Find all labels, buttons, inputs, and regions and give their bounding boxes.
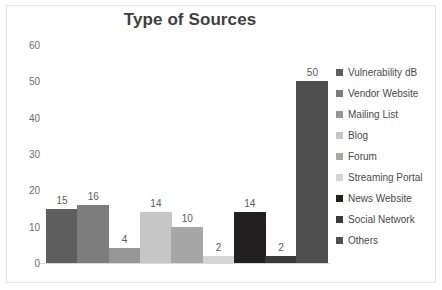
bar-group: 4 <box>109 45 141 263</box>
legend-item[interactable]: Streaming Portal <box>336 167 436 188</box>
legend-item-label: Vendor Website <box>348 88 418 99</box>
legend-item[interactable]: News Website <box>336 188 436 209</box>
legend-item-label: Mailing List <box>348 109 398 120</box>
bar[interactable] <box>46 209 78 264</box>
legend-swatch-icon <box>336 237 343 244</box>
x-axis-baseline <box>40 263 330 264</box>
bar[interactable] <box>171 227 203 263</box>
bar[interactable] <box>109 248 141 263</box>
bar-value-label: 14 <box>234 198 266 209</box>
bar-value-label: 16 <box>77 191 109 202</box>
y-axis-tick-40: 40 <box>12 114 40 124</box>
bar-group: 14 <box>140 45 172 263</box>
legend-item-label: Vulnerability dB <box>348 67 417 78</box>
bar-group: 2 <box>203 45 235 263</box>
y-axis-tick-50: 50 <box>12 77 40 87</box>
legend-item[interactable]: Others <box>336 230 436 251</box>
bar-group: 15 <box>46 45 78 263</box>
legend-swatch-icon <box>336 153 343 160</box>
y-axis-tick-30: 30 <box>12 150 40 160</box>
bar-value-label: 15 <box>46 195 78 206</box>
bar[interactable] <box>140 212 172 263</box>
legend-swatch-icon <box>336 216 343 223</box>
bar[interactable] <box>203 256 235 263</box>
chart-container: Type of Sources 6050403020100 1516414102… <box>0 0 442 290</box>
legend-swatch-icon <box>336 69 343 76</box>
legend-swatch-icon <box>336 132 343 139</box>
y-axis-tick-20: 20 <box>12 186 40 196</box>
bars-layer: 151641410214250 <box>44 45 324 263</box>
bar-value-label: 4 <box>109 234 141 245</box>
legend-item-label: Others <box>348 235 378 246</box>
bar-value-label: 10 <box>171 213 203 224</box>
legend-swatch-icon <box>336 195 343 202</box>
bar-value-label: 14 <box>140 198 172 209</box>
y-axis: 6050403020100 <box>12 40 40 270</box>
y-axis-tick-10: 10 <box>12 223 40 233</box>
chart-title: Type of Sources <box>60 10 320 30</box>
plot-area: 151641410214250 <box>44 45 324 263</box>
bar-value-label: 2 <box>265 242 297 253</box>
legend-item-label: Forum <box>348 151 377 162</box>
legend-item[interactable]: Vendor Website <box>336 83 436 104</box>
legend-swatch-icon <box>336 174 343 181</box>
legend-item-label: Social Network <box>348 214 415 225</box>
bar[interactable] <box>234 212 266 263</box>
bar-group: 50 <box>296 45 328 263</box>
chart-legend: Vulnerability dBVendor WebsiteMailing Li… <box>336 62 436 251</box>
legend-item-label: Blog <box>348 130 368 141</box>
bar-group: 10 <box>171 45 203 263</box>
legend-item[interactable]: Forum <box>336 146 436 167</box>
legend-item[interactable]: Vulnerability dB <box>336 62 436 83</box>
legend-swatch-icon <box>336 90 343 97</box>
bar[interactable] <box>265 256 297 263</box>
bar-group: 16 <box>77 45 109 263</box>
bar-value-label: 2 <box>203 242 235 253</box>
legend-item-label: News Website <box>348 193 412 204</box>
legend-item[interactable]: Mailing List <box>336 104 436 125</box>
legend-item[interactable]: Social Network <box>336 209 436 230</box>
bar[interactable] <box>296 81 328 263</box>
bar-group: 2 <box>265 45 297 263</box>
y-axis-tick-0: 0 <box>12 259 40 269</box>
y-axis-tick-60: 60 <box>12 41 40 51</box>
bar-value-label: 50 <box>296 67 328 78</box>
legend-item[interactable]: Blog <box>336 125 436 146</box>
legend-swatch-icon <box>336 111 343 118</box>
bar-group: 14 <box>234 45 266 263</box>
legend-item-label: Streaming Portal <box>348 172 422 183</box>
bar[interactable] <box>77 205 109 263</box>
